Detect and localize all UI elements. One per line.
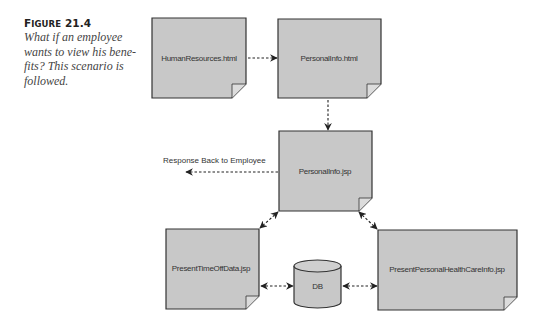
- node-label: PresentPersonalHealthCareInfo.jsp: [389, 265, 505, 274]
- edge-jsp-to-healthcare: [359, 212, 377, 229]
- response-back-label: Response Back to Employee: [163, 156, 266, 165]
- node-label: PersonalInfo.jsp: [299, 167, 352, 176]
- node-label: HumanResources.html: [161, 54, 237, 63]
- edge-jsp-to-timeoff: [260, 212, 278, 228]
- node-personal-info-html: PersonalInfo.html: [278, 19, 381, 98]
- node-present-personal-health-care-info-jsp: PresentPersonalHealthCareInfo.jsp: [378, 230, 517, 310]
- node-present-time-off-data-jsp: PresentTimeOffData.jsp: [166, 229, 259, 309]
- flow-diagram: HumanResources.html PersonalInfo.html Pe…: [0, 0, 536, 322]
- node-label: DB: [312, 282, 323, 291]
- node-personal-info-jsp: PersonalInfo.jsp: [279, 131, 372, 211]
- node-human-resources-html: HumanResources.html: [152, 18, 246, 98]
- node-label: PresentTimeOffData.jsp: [172, 264, 251, 273]
- node-db: DB: [294, 260, 341, 308]
- node-label: PersonalInfo.html: [300, 54, 358, 63]
